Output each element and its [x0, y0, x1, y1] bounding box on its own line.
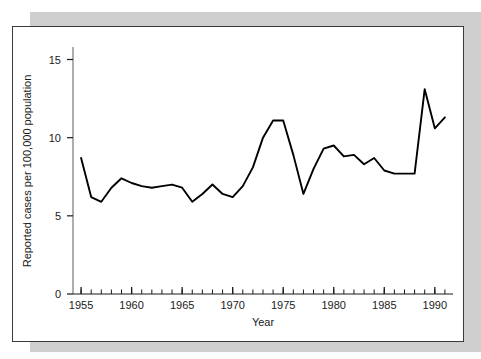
- x-axis-tick-labels: 19551960196519701975198019851990: [69, 299, 447, 311]
- data-series-line: [81, 89, 445, 202]
- y-tick-label: 0: [55, 288, 61, 300]
- y-axis-tick-labels: 051015: [49, 54, 61, 300]
- x-tick-label: 1980: [322, 299, 346, 311]
- y-axis-title: Reported cases per 100,000 population: [21, 75, 33, 268]
- figure-panel: 051015 19551960196519701975198019851990 …: [12, 26, 464, 342]
- y-axis-ticks: [67, 60, 73, 294]
- x-tick-label: 1975: [271, 299, 295, 311]
- x-tick-label: 1955: [69, 299, 93, 311]
- x-tick-label: 1990: [423, 299, 447, 311]
- x-axis-minor-ticks: [81, 290, 445, 295]
- y-tick-label: 5: [55, 210, 61, 222]
- x-tick-label: 1965: [170, 299, 194, 311]
- y-tick-label: 15: [49, 54, 61, 66]
- chart-screenshot: 051015 19551960196519701975198019851990 …: [0, 0, 481, 359]
- x-axis-major-ticks: [81, 287, 435, 294]
- line-chart-svg: 051015 19551960196519701975198019851990 …: [13, 27, 463, 341]
- y-tick-label: 10: [49, 132, 61, 144]
- x-axis-title: Year: [252, 316, 275, 328]
- x-tick-label: 1960: [119, 299, 143, 311]
- x-tick-label: 1985: [372, 299, 396, 311]
- x-tick-label: 1970: [220, 299, 244, 311]
